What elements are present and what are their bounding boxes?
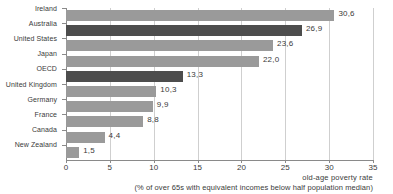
x-tick-label: 15	[193, 163, 202, 172]
x-axis-title: old-age poverty rate	[302, 173, 373, 182]
bar-value-label: 10,3	[160, 85, 176, 94]
bars-layer: 30,626,923,622,013,310,39,98,84,41,5	[66, 8, 373, 160]
bar-rows: 30,626,923,622,013,310,39,98,84,41,5	[66, 8, 373, 160]
category-label: Ireland	[35, 5, 57, 12]
category-label: OECD	[36, 65, 57, 72]
bar-value-label: 8,8	[147, 115, 159, 124]
category-label: New Zealand	[15, 141, 57, 148]
x-tick-label: 35	[369, 163, 378, 172]
bar-row: 1,5	[66, 145, 373, 160]
category-label: France	[35, 111, 57, 118]
x-axis-subtitle: (% of over 65s with equivalent incomes b…	[134, 183, 373, 192]
x-tick-label: 30	[325, 163, 334, 172]
bar	[66, 101, 153, 112]
x-axis-line	[66, 160, 374, 161]
bar	[66, 71, 183, 82]
category-label: United Kingdom	[6, 81, 57, 88]
bar	[66, 25, 302, 36]
x-tick-label: 20	[237, 163, 246, 172]
category-label: Germany	[28, 96, 58, 103]
bar-value-label: 9,9	[157, 100, 169, 109]
bar-value-label: 13,3	[187, 70, 203, 79]
bar-row: 26,9	[66, 23, 373, 38]
gridline-35	[373, 8, 374, 160]
bar	[66, 116, 143, 127]
category-label: United States	[14, 35, 57, 42]
bar-row: 10,3	[66, 84, 373, 99]
bar-row: 23,6	[66, 38, 373, 53]
bar	[66, 40, 273, 51]
bar-value-label: 1,5	[83, 146, 95, 155]
bar-row: 9,9	[66, 99, 373, 114]
x-tick-label: 0	[64, 163, 68, 172]
bar-value-label: 22,0	[263, 55, 279, 64]
bar-row: 13,3	[66, 69, 373, 84]
bar-chart: IrelandAustraliaUnited StatesJapanOECDUn…	[0, 0, 393, 194]
bar-row: 8,8	[66, 114, 373, 129]
category-label: Australia	[29, 20, 57, 27]
bar-value-label: 26,9	[306, 24, 322, 33]
bar	[66, 86, 156, 97]
bar-value-label: 4,4	[109, 131, 121, 140]
x-tick-label: 5	[108, 163, 112, 172]
bar-row: 22,0	[66, 54, 373, 69]
bar-value-label: 30,6	[338, 9, 354, 18]
x-tick-label: 10	[149, 163, 158, 172]
category-axis-labels: IrelandAustraliaUnited StatesJapanOECDUn…	[0, 8, 62, 160]
bar-value-label: 23,6	[277, 39, 293, 48]
bar	[66, 147, 79, 158]
bar-row: 4,4	[66, 130, 373, 145]
bar-row: 30,6	[66, 8, 373, 23]
category-label: Japan	[37, 50, 57, 57]
bar	[66, 56, 259, 67]
bar	[66, 132, 105, 143]
x-tick-label: 25	[281, 163, 290, 172]
bar	[66, 10, 334, 21]
category-label: Canada	[32, 126, 57, 133]
